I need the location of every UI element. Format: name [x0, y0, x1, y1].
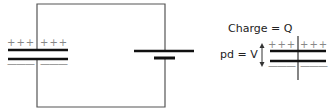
pd-label: pd = V — [220, 48, 258, 61]
detail-plus-left: +++ — [268, 40, 296, 50]
battery-symbol — [134, 51, 194, 58]
circuit-diagram — [0, 0, 330, 110]
plus-signs-left: +++ — [7, 38, 35, 48]
detail-minus-right: ——— — [300, 61, 327, 71]
charge-label: Charge = Q — [228, 22, 292, 35]
detail-minus-left: ——— — [268, 61, 295, 71]
plus-signs-right: +++ — [40, 38, 68, 48]
circuit-wires — [37, 4, 165, 107]
detail-plus-right: +++ — [300, 40, 328, 50]
pd-arrow-icon — [260, 43, 265, 67]
minus-signs-right: ——— — [40, 59, 67, 69]
minus-signs-left: ——— — [7, 59, 34, 69]
